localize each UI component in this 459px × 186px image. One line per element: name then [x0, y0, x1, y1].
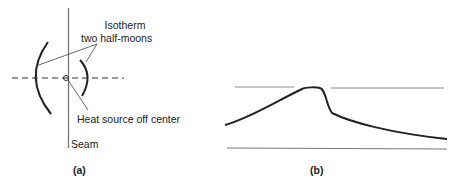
isotherm-label: Isotherm: [98, 19, 152, 31]
panel-a-caption: (a): [73, 164, 86, 176]
diagram-canvas: [0, 0, 459, 186]
isotherm-label-line2: two half-moons: [81, 32, 152, 44]
temperature-profile-curve: [225, 87, 447, 139]
heat-source-label: Heat source off center: [77, 113, 180, 125]
panel-b-figure: [225, 87, 447, 149]
seam-label: Seam: [71, 138, 98, 150]
lower-line: [227, 148, 447, 149]
isotherm-label-line1: Isotherm: [98, 19, 152, 31]
panel-b-caption: (b): [310, 164, 323, 176]
heat-source-leader: [68, 80, 88, 110]
isotherm-leader-right: [86, 44, 97, 62]
